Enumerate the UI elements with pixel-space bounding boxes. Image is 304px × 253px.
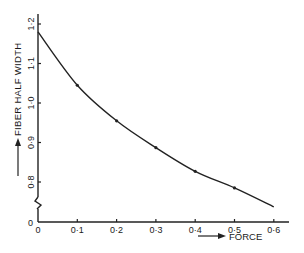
data-point bbox=[115, 119, 118, 122]
x-tick-label: 0 bbox=[35, 225, 40, 235]
x-tick-label: 0·4 bbox=[189, 225, 202, 235]
y-tick-label: 0·9 bbox=[26, 136, 36, 149]
y-axis-break-icon bbox=[35, 197, 41, 209]
series-line bbox=[38, 32, 274, 207]
x-tick-label: 0·1 bbox=[71, 225, 84, 235]
y-origin-label: 0 bbox=[28, 218, 33, 228]
data-point bbox=[194, 170, 197, 173]
y-tick-label: 1·1 bbox=[26, 57, 36, 70]
x-tick-label: 0·3 bbox=[149, 225, 162, 235]
data-point bbox=[154, 146, 157, 149]
y-axis-arrowhead-icon bbox=[15, 138, 21, 146]
axes bbox=[35, 14, 289, 222]
chart: 00·10·20·30·40·50·6 0·80·91·01·11·2 0 FI… bbox=[0, 0, 304, 253]
x-axis-label: FORCE bbox=[229, 231, 262, 242]
data-series bbox=[38, 32, 274, 207]
y-tick-label: 1·2 bbox=[26, 17, 36, 30]
x-axis-label-group: FORCE bbox=[198, 231, 262, 242]
x-tick-label: 0·6 bbox=[267, 225, 280, 235]
x-axis-arrowhead-icon bbox=[218, 233, 226, 239]
data-point bbox=[233, 186, 236, 189]
data-point bbox=[76, 84, 79, 87]
y-ticks: 0·80·91·01·11·2 bbox=[26, 17, 41, 188]
y-axis-label-group: FIBER HALF WIDTH bbox=[12, 43, 23, 176]
x-tick-label: 0·2 bbox=[110, 225, 123, 235]
y-tick-label: 0·8 bbox=[26, 175, 36, 188]
y-tick-label: 1·0 bbox=[26, 96, 36, 109]
y-axis-label: FIBER HALF WIDTH bbox=[12, 43, 23, 136]
